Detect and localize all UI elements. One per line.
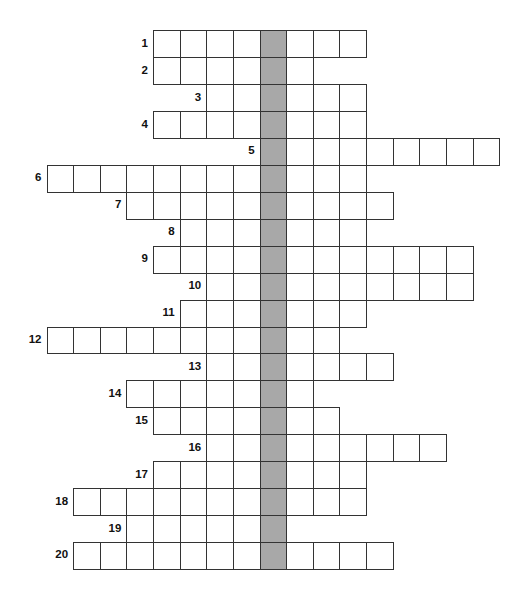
shaded-cell[interactable]: [260, 273, 288, 301]
letter-cell[interactable]: [286, 488, 314, 516]
letter-cell[interactable]: [206, 192, 234, 220]
letter-cell[interactable]: [206, 84, 234, 112]
letter-cell[interactable]: [206, 542, 234, 570]
shaded-cell[interactable]: [260, 57, 288, 85]
letter-cell[interactable]: [313, 461, 341, 489]
letter-cell[interactable]: [419, 138, 447, 166]
letter-cell[interactable]: [233, 300, 261, 328]
letter-cell[interactable]: [339, 111, 367, 139]
letter-cell[interactable]: [393, 434, 421, 462]
letter-cell[interactable]: [339, 138, 367, 166]
letter-cell[interactable]: [233, 57, 261, 85]
shaded-cell[interactable]: [260, 165, 288, 193]
letter-cell[interactable]: [313, 407, 341, 435]
shaded-cell[interactable]: [260, 353, 288, 381]
letter-cell[interactable]: [233, 165, 261, 193]
letter-cell[interactable]: [206, 488, 234, 516]
letter-cell[interactable]: [286, 380, 314, 408]
letter-cell[interactable]: [446, 138, 474, 166]
letter-cell[interactable]: [206, 30, 234, 58]
shaded-cell[interactable]: [260, 380, 288, 408]
letter-cell[interactable]: [126, 192, 154, 220]
letter-cell[interactable]: [286, 461, 314, 489]
letter-cell[interactable]: [339, 273, 367, 301]
shaded-cell[interactable]: [260, 461, 288, 489]
letter-cell[interactable]: [313, 246, 341, 274]
letter-cell[interactable]: [286, 192, 314, 220]
letter-cell[interactable]: [206, 300, 234, 328]
letter-cell[interactable]: [339, 434, 367, 462]
letter-cell[interactable]: [47, 327, 75, 355]
letter-cell[interactable]: [206, 407, 234, 435]
letter-cell[interactable]: [366, 434, 394, 462]
letter-cell[interactable]: [206, 327, 234, 355]
letter-cell[interactable]: [233, 84, 261, 112]
letter-cell[interactable]: [233, 111, 261, 139]
letter-cell[interactable]: [100, 488, 128, 516]
letter-cell[interactable]: [206, 165, 234, 193]
letter-cell[interactable]: [286, 138, 314, 166]
letter-cell[interactable]: [313, 165, 341, 193]
letter-cell[interactable]: [313, 111, 341, 139]
letter-cell[interactable]: [206, 246, 234, 274]
letter-cell[interactable]: [313, 192, 341, 220]
letter-cell[interactable]: [153, 542, 181, 570]
letter-cell[interactable]: [100, 327, 128, 355]
letter-cell[interactable]: [126, 488, 154, 516]
letter-cell[interactable]: [126, 327, 154, 355]
letter-cell[interactable]: [153, 57, 181, 85]
letter-cell[interactable]: [313, 273, 341, 301]
letter-cell[interactable]: [100, 165, 128, 193]
letter-cell[interactable]: [419, 246, 447, 274]
letter-cell[interactable]: [233, 246, 261, 274]
letter-cell[interactable]: [286, 30, 314, 58]
letter-cell[interactable]: [286, 407, 314, 435]
letter-cell[interactable]: [180, 327, 208, 355]
letter-cell[interactable]: [73, 542, 101, 570]
shaded-cell[interactable]: [260, 542, 288, 570]
letter-cell[interactable]: [233, 515, 261, 543]
shaded-cell[interactable]: [260, 84, 288, 112]
letter-cell[interactable]: [233, 30, 261, 58]
letter-cell[interactable]: [73, 327, 101, 355]
letter-cell[interactable]: [366, 192, 394, 220]
shaded-cell[interactable]: [260, 30, 288, 58]
letter-cell[interactable]: [233, 192, 261, 220]
letter-cell[interactable]: [126, 542, 154, 570]
letter-cell[interactable]: [180, 192, 208, 220]
letter-cell[interactable]: [313, 219, 341, 247]
letter-cell[interactable]: [286, 542, 314, 570]
shaded-cell[interactable]: [260, 192, 288, 220]
letter-cell[interactable]: [206, 515, 234, 543]
letter-cell[interactable]: [446, 246, 474, 274]
letter-cell[interactable]: [233, 542, 261, 570]
letter-cell[interactable]: [206, 57, 234, 85]
letter-cell[interactable]: [153, 246, 181, 274]
letter-cell[interactable]: [180, 542, 208, 570]
shaded-cell[interactable]: [260, 515, 288, 543]
letter-cell[interactable]: [180, 300, 208, 328]
letter-cell[interactable]: [366, 138, 394, 166]
letter-cell[interactable]: [393, 138, 421, 166]
letter-cell[interactable]: [206, 353, 234, 381]
letter-cell[interactable]: [206, 380, 234, 408]
letter-cell[interactable]: [339, 300, 367, 328]
letter-cell[interactable]: [286, 246, 314, 274]
letter-cell[interactable]: [233, 461, 261, 489]
letter-cell[interactable]: [339, 353, 367, 381]
letter-cell[interactable]: [286, 219, 314, 247]
letter-cell[interactable]: [339, 192, 367, 220]
shaded-cell[interactable]: [260, 407, 288, 435]
letter-cell[interactable]: [339, 488, 367, 516]
letter-cell[interactable]: [339, 165, 367, 193]
letter-cell[interactable]: [419, 434, 447, 462]
letter-cell[interactable]: [286, 273, 314, 301]
letter-cell[interactable]: [206, 219, 234, 247]
letter-cell[interactable]: [180, 111, 208, 139]
letter-cell[interactable]: [233, 488, 261, 516]
letter-cell[interactable]: [286, 434, 314, 462]
letter-cell[interactable]: [313, 30, 341, 58]
letter-cell[interactable]: [419, 273, 447, 301]
letter-cell[interactable]: [100, 542, 128, 570]
letter-cell[interactable]: [126, 380, 154, 408]
